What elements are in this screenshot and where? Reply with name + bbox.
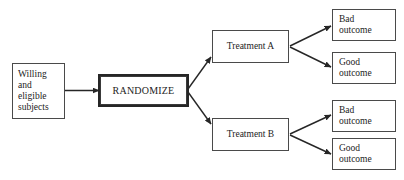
node-treatment-a-good-outcome: Good outcome: [332, 52, 396, 84]
node-label-subjects: Willing and eligible subjects: [18, 69, 49, 114]
edge-treatment-a-to-good-outcome: [290, 47, 331, 67]
node-treatment-a: Treatment A: [212, 30, 289, 63]
node-label-randomize: RANDOMIZE: [113, 85, 175, 97]
edge-treatment-b-to-good-outcome: [290, 135, 331, 154]
node-treatment-b: Treatment B: [212, 118, 289, 151]
node-willing-eligible-subjects: Willing and eligible subjects: [12, 63, 65, 119]
node-label-outcome-a-good: Good outcome: [339, 57, 372, 79]
edge-randomize-to-treatment-b: [188, 92, 211, 124]
node-treatment-b-bad-outcome: Bad outcome: [332, 100, 396, 132]
trial-flowchart-diagram: Willing and eligible subjects RANDOMIZE …: [0, 0, 404, 180]
node-label-outcome-a-bad: Bad outcome: [339, 14, 372, 36]
node-label-outcome-b-bad: Bad outcome: [339, 105, 372, 127]
node-randomize: RANDOMIZE: [100, 76, 187, 105]
node-treatment-a-bad-outcome: Bad outcome: [332, 9, 396, 41]
edge-randomize-to-treatment-a: [188, 57, 211, 89]
edge-treatment-a-to-bad-outcome: [290, 26, 331, 46]
node-label-outcome-b-good: Good outcome: [339, 143, 372, 165]
node-label-treatment-a: Treatment A: [227, 41, 274, 52]
edge-treatment-b-to-bad-outcome: [290, 115, 331, 134]
node-treatment-b-good-outcome: Good outcome: [332, 138, 396, 170]
node-label-treatment-b: Treatment B: [227, 129, 274, 140]
